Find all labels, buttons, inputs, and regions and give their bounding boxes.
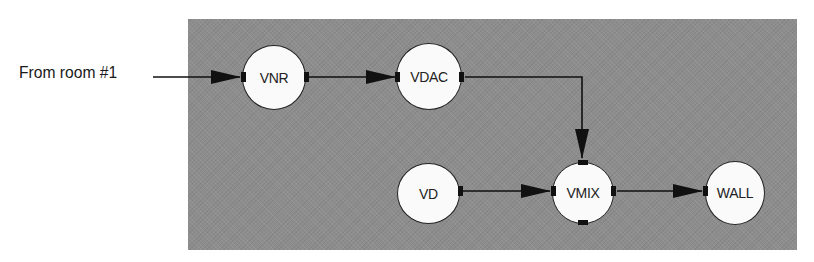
- port-vmix-in-left: [551, 186, 556, 196]
- port-vdac-out: [459, 72, 464, 82]
- port-vnr-in: [241, 72, 246, 82]
- node-ports: [0, 0, 814, 262]
- port-vnr-out: [304, 72, 309, 82]
- port-vmix-in-top: [578, 160, 588, 165]
- port-vdac-in: [395, 72, 400, 82]
- port-vmix-out-right: [611, 186, 616, 196]
- diagram-canvas: From room #1 VNR VDAC: [0, 0, 814, 262]
- port-vmix-bottom: [578, 220, 588, 225]
- port-vd-out: [458, 186, 463, 196]
- port-wall-in: [703, 186, 708, 196]
